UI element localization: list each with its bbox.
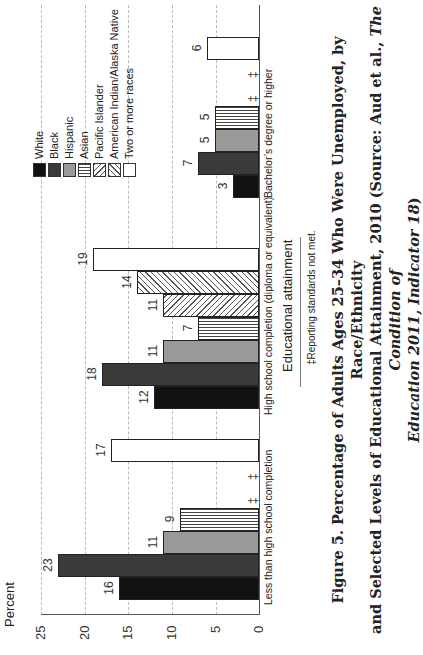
legend-swatch-hispanic [63, 163, 76, 177]
value-label: 6 [190, 33, 204, 63]
legend-label-hispanic: Hispanic [63, 117, 75, 159]
value-label: 9 [163, 504, 177, 534]
bar-asian-lths [180, 508, 259, 531]
legend-swatch-white [33, 163, 46, 177]
value-label: 14 [120, 267, 134, 297]
y-tick-15: 15 [120, 626, 135, 640]
value-label: 18 [85, 359, 99, 389]
value-label: 23 [41, 550, 55, 580]
value-label: 19 [76, 244, 90, 274]
footnote-rule [300, 237, 301, 387]
bar-asian-ba [215, 106, 259, 129]
y-tick-20: 20 [77, 626, 92, 640]
value-label: 7 [181, 148, 195, 178]
value-label: 11 [146, 336, 160, 366]
missing-marker: ‡ [246, 71, 260, 78]
legend: White Black Hispanic Asian Pacific Islan… [33, 27, 143, 177]
category-label-hs: High school completion (diploma or equiv… [262, 197, 274, 415]
missing-marker: ‡ [246, 497, 260, 504]
legend-label-black: Black [48, 132, 60, 159]
caption-line-3: Education 2011, Indicator 18) [404, 5, 423, 635]
value-label: 17 [94, 435, 108, 465]
value-label: 12 [137, 382, 151, 412]
legend-swatch-pacific-islander [93, 163, 106, 177]
value-label: 7 [181, 313, 195, 343]
bar-white-hs [154, 386, 259, 409]
bar-black-lths [58, 554, 259, 577]
y-tick-25: 25 [33, 626, 48, 640]
missing-marker: ‡ [246, 473, 260, 480]
bar-asian-hs [198, 317, 259, 340]
bar-pacific-islander-hs [163, 294, 259, 317]
legend-swatch-black [48, 163, 61, 177]
y-axis-title: Percent [2, 582, 17, 627]
y-tick-5: 5 [208, 626, 223, 633]
value-label: 11 [146, 527, 160, 557]
legend-swatch-two-or-more [123, 163, 136, 177]
missing-marker: ‡ [246, 95, 260, 102]
bar-white-ba [233, 175, 259, 198]
y-tick-0: 0 [251, 626, 266, 633]
y-axis-line [41, 614, 259, 615]
legend-swatch-american-indian [108, 163, 121, 177]
category-label-lths: Less than high school completion [262, 450, 274, 605]
value-label: 11 [146, 290, 160, 320]
value-label: 3 [216, 171, 230, 201]
bar-white-lths [119, 577, 259, 600]
bar-black-hs [102, 363, 259, 386]
figure-caption: Figure 5. Percentage of Adults Ages 25–3… [328, 5, 423, 635]
bar-two-or-more-ba [207, 37, 259, 60]
value-label: 16 [102, 573, 116, 603]
bar-hispanic-hs [163, 340, 259, 363]
caption-line-2: and Selected Levels of Educational Attai… [366, 5, 404, 635]
legend-label-asian: Asian [78, 131, 90, 159]
legend-label-white: White [33, 131, 45, 159]
legend-swatch-asian [78, 163, 91, 177]
bar-two-or-more-hs [93, 248, 259, 271]
y-tick-10: 10 [164, 626, 179, 640]
bar-hispanic-ba [215, 129, 259, 152]
legend-label-pacific-islander: Pacific Islander [93, 84, 105, 159]
caption-line-1: Figure 5. Percentage of Adults Ages 25–3… [328, 5, 366, 635]
legend-label-american-indian: American Indian/Alaska Native [108, 9, 120, 159]
x-axis-title: Educational attainment [280, 240, 295, 372]
category-label-ba: Bachelor’s degree or higher [262, 69, 274, 198]
value-label: 5 [198, 102, 212, 132]
legend-label-two-or-more: Two or more races [123, 68, 135, 159]
footnote: ‡Reporting standards not met. [306, 230, 317, 365]
bar-two-or-more-lths [111, 439, 259, 462]
bar-hispanic-lths [163, 531, 259, 554]
